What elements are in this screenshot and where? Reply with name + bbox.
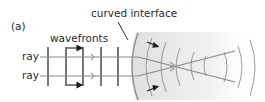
refraction-diagram: (a) wavefronts curved interface ray ray — [0, 0, 265, 102]
incident-wavefronts — [48, 47, 118, 86]
ray-label-bottom: ray — [22, 70, 39, 81]
panel-label: (a) — [11, 21, 26, 32]
ray-label-top: ray — [22, 51, 39, 62]
wavefronts-label: wavefronts — [50, 33, 108, 44]
wavelength-arrows — [67, 46, 82, 88]
curved-interface-label: curved interface — [91, 8, 177, 19]
interface-leader-line — [118, 22, 128, 40]
